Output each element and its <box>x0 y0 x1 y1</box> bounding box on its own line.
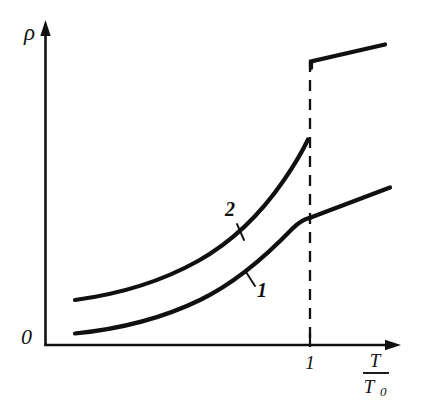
x-axis-title-fraction: T T 0 <box>363 350 389 399</box>
curve-1-label: 1 <box>257 279 267 301</box>
x-axis-tick-group: 1 <box>305 333 315 373</box>
resistivity-chart: ρ 0 T T 0 1 2 <box>0 0 436 413</box>
origin-label: 0 <box>21 324 32 349</box>
curve-2-label: 2 <box>224 198 235 220</box>
y-axis-title: ρ <box>23 20 35 45</box>
axes-group <box>40 20 401 350</box>
x-axis-arrowhead <box>385 340 401 350</box>
figure-root: ρ 0 T T 0 1 2 <box>0 0 436 413</box>
curve-1-upper-branch-path <box>310 188 390 218</box>
axis-titles-group: ρ 0 <box>21 20 35 349</box>
x-axis-tick-label-one: 1 <box>305 352 315 373</box>
y-axis-arrowhead <box>40 20 50 36</box>
curve-1-path <box>75 218 310 334</box>
x-axis-title-numerator: T <box>370 350 382 371</box>
x-axis-title-denominator: T <box>364 376 376 397</box>
curve-2-group <box>75 45 385 301</box>
curve-2-upper-branch-path <box>311 45 385 69</box>
curve-1-annotation: 1 <box>246 272 267 301</box>
curve-2-path <box>75 140 308 301</box>
curve-1-leader-tick <box>246 272 255 286</box>
x-axis-title-denominator-subscript: 0 <box>380 384 387 399</box>
